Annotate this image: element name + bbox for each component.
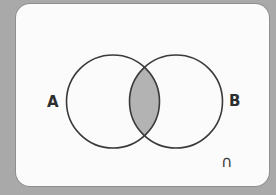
intersection-symbol: ∩ [221,154,233,170]
set-a-label: A [47,95,59,110]
diagram-frame: A B ∩ [0,0,276,195]
set-b-label: B [229,94,240,109]
